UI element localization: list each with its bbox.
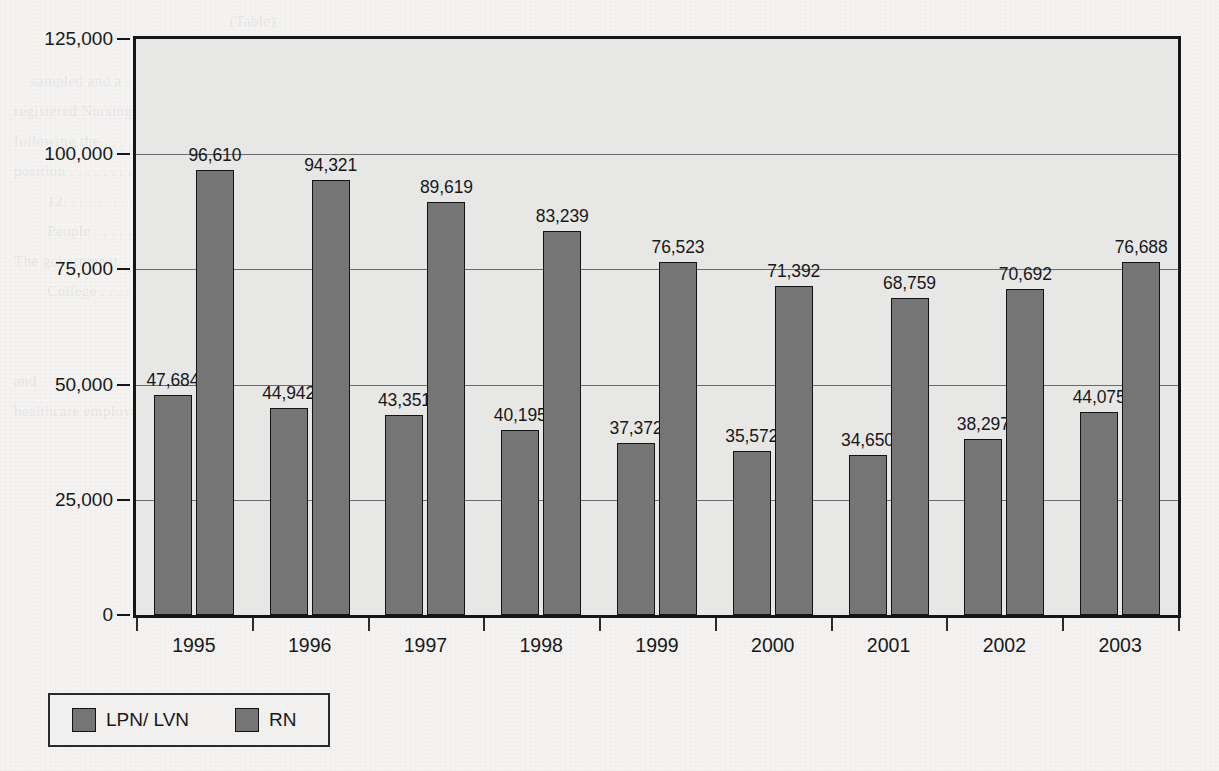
chart-legend: LPN/ LVN RN bbox=[48, 693, 330, 747]
y-axis-tick-label: 50,000 bbox=[55, 374, 113, 396]
x-axis-tick-mark bbox=[136, 618, 138, 631]
bar-value-label: 34,650 bbox=[841, 430, 894, 451]
bar bbox=[196, 170, 234, 615]
bar bbox=[427, 202, 465, 615]
bar bbox=[659, 262, 697, 615]
legend-swatch-icon bbox=[72, 708, 96, 732]
bar bbox=[154, 395, 192, 615]
legend-label: RN bbox=[269, 709, 296, 731]
gridline bbox=[136, 154, 1178, 155]
y-axis-tick-mark bbox=[117, 268, 130, 270]
bar bbox=[891, 298, 929, 615]
bar-value-label: 47,684 bbox=[146, 370, 199, 391]
bar-value-label: 70,692 bbox=[999, 264, 1052, 285]
bar-value-label: 83,239 bbox=[536, 206, 589, 227]
bar bbox=[543, 231, 581, 615]
bar-value-label: 94,321 bbox=[304, 155, 357, 176]
bar bbox=[964, 439, 1002, 615]
x-axis-tick-mark bbox=[368, 618, 370, 631]
bar bbox=[849, 455, 887, 615]
y-axis-tick-mark bbox=[117, 614, 130, 616]
y-axis-tick-mark bbox=[117, 384, 130, 386]
y-axis-tick-label: 75,000 bbox=[55, 258, 113, 280]
x-axis-tick-label: 2001 bbox=[867, 634, 910, 657]
bar-value-label: 37,372 bbox=[610, 418, 663, 439]
y-axis-tick-mark bbox=[117, 38, 130, 40]
bar-value-label: 68,759 bbox=[883, 273, 936, 294]
y-axis-tick-label: 25,000 bbox=[55, 489, 113, 511]
x-axis-tick-label: 1997 bbox=[404, 634, 447, 657]
y-axis-tick-label: 100,000 bbox=[44, 143, 113, 165]
bar-value-label: 89,619 bbox=[420, 177, 473, 198]
x-axis-tick-label: 1999 bbox=[635, 634, 678, 657]
bar bbox=[775, 286, 813, 615]
bar-value-label: 44,942 bbox=[262, 383, 315, 404]
x-axis-tick-label: 2000 bbox=[751, 634, 794, 657]
x-axis-tick-label: 1996 bbox=[288, 634, 331, 657]
bar bbox=[270, 408, 308, 615]
plot-inner: 47,68496,61044,94294,32143,35189,61940,1… bbox=[136, 39, 1178, 615]
bar-value-label: 76,523 bbox=[652, 237, 705, 258]
bar bbox=[501, 430, 539, 615]
y-axis-tick-label: 125,000 bbox=[44, 28, 113, 50]
bar bbox=[1080, 412, 1118, 615]
bar bbox=[1122, 262, 1160, 615]
legend-entry-rn[interactable]: RN bbox=[235, 708, 296, 732]
bar-value-label: 35,572 bbox=[725, 426, 778, 447]
legend-entry-lpn-lvn[interactable]: LPN/ LVN bbox=[72, 708, 189, 732]
x-axis-tick-mark bbox=[831, 618, 833, 631]
x-axis-tick-mark bbox=[599, 618, 601, 631]
y-axis: 025,00050,00075,000100,000125,000 bbox=[0, 0, 133, 618]
bar-value-label: 38,297 bbox=[957, 414, 1010, 435]
bar-value-label: 76,688 bbox=[1115, 237, 1168, 258]
bar-value-label: 43,351 bbox=[378, 390, 431, 411]
bar-value-label: 40,195 bbox=[494, 405, 547, 426]
plot-area: 47,68496,61044,94294,32143,35189,61940,1… bbox=[133, 36, 1181, 618]
y-axis-tick-mark bbox=[117, 153, 130, 155]
x-axis-tick-label: 2002 bbox=[983, 634, 1026, 657]
x-axis-tick-label: 1995 bbox=[172, 634, 215, 657]
bar-value-label: 96,610 bbox=[188, 145, 241, 166]
x-axis-tick-mark bbox=[1062, 618, 1064, 631]
x-axis-tick-mark bbox=[1178, 618, 1180, 631]
x-axis-tick-label: 2003 bbox=[1098, 634, 1141, 657]
bar bbox=[733, 451, 771, 615]
x-axis-tick-mark bbox=[252, 618, 254, 631]
legend-label: LPN/ LVN bbox=[106, 709, 189, 731]
bar bbox=[1006, 289, 1044, 615]
y-axis-tick-label: 0 bbox=[102, 604, 113, 626]
grouped-bar-chart: 025,00050,00075,000100,000125,000 47,684… bbox=[0, 0, 1219, 771]
x-axis-tick-mark bbox=[483, 618, 485, 631]
x-axis-tick-label: 1998 bbox=[520, 634, 563, 657]
x-axis: 199519961997199819992000200120022003 bbox=[133, 618, 1181, 670]
bar bbox=[385, 415, 423, 615]
bar bbox=[617, 443, 655, 615]
x-axis-tick-mark bbox=[715, 618, 717, 631]
bar-value-label: 44,075 bbox=[1073, 387, 1126, 408]
y-axis-tick-mark bbox=[117, 499, 130, 501]
bar-value-label: 71,392 bbox=[767, 261, 820, 282]
x-axis-tick-mark bbox=[946, 618, 948, 631]
legend-swatch-icon bbox=[235, 708, 259, 732]
bar bbox=[312, 180, 350, 615]
